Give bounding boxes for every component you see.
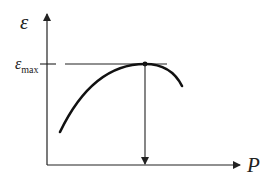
max-label-sub: max [21, 64, 38, 75]
x-axis-label: P [246, 153, 260, 177]
max-label: εmax [15, 55, 39, 75]
y-axis-label: ε [20, 10, 29, 34]
epsilon-curve [60, 64, 182, 132]
diagram-canvas: ε P εmax [0, 0, 275, 185]
